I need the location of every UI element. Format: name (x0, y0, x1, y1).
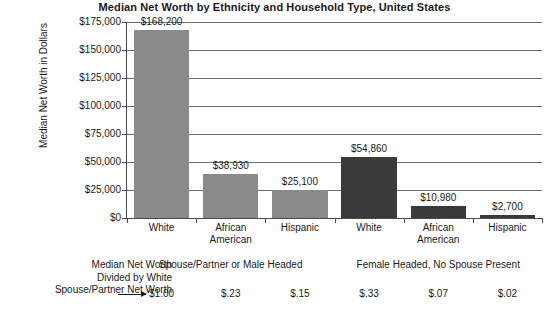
gridline (127, 162, 542, 163)
ratio-value: $.23 (196, 288, 265, 299)
x-category-label: White (127, 222, 196, 234)
ratio-value: $.33 (335, 288, 404, 299)
bar-value-label: $168,200 (122, 16, 202, 27)
bar (411, 206, 466, 218)
y-tick-mark (122, 190, 127, 191)
ratio-caption-line: Divided by White (6, 272, 172, 285)
x-category-label: Hispanic (265, 222, 334, 234)
y-tick-mark (122, 106, 127, 107)
ratio-value: $.07 (404, 288, 473, 299)
x-category-label: White (335, 222, 404, 234)
x-tick-mark (542, 218, 543, 223)
chart-figure: Median Net Worth by Ethnicity and Househ… (0, 0, 549, 310)
plot-area (127, 22, 542, 218)
ratio-value: $.02 (473, 288, 542, 299)
bar (480, 215, 535, 218)
bar-value-label: $25,100 (260, 176, 340, 187)
bar-value-label: $54,860 (329, 143, 409, 154)
gridline (127, 190, 542, 191)
bar (272, 190, 327, 218)
x-category-label: AfricanAmerican (404, 222, 473, 245)
bar-value-label: $38,930 (191, 160, 271, 171)
y-tick-label: $150,000 (43, 44, 121, 55)
y-tick-mark (122, 78, 127, 79)
y-tick-label: $175,000 (43, 16, 121, 27)
y-tick-label: $25,000 (43, 184, 121, 195)
ratio-value: $1.00 (127, 288, 196, 299)
gridline (127, 106, 542, 107)
bar-value-label: $2,700 (467, 201, 547, 212)
group-label: Female Headed, No Spouse Present (335, 259, 543, 270)
chart-title: Median Net Worth by Ethnicity and Househ… (0, 1, 549, 13)
y-tick-label: $75,000 (43, 128, 121, 139)
bar (134, 30, 189, 218)
y-tick-mark (122, 162, 127, 163)
x-category-label: AfricanAmerican (196, 222, 265, 245)
y-tick-label: $0 (43, 212, 121, 223)
ratio-value: $.15 (265, 288, 334, 299)
y-tick-mark (122, 134, 127, 135)
bar (341, 157, 396, 218)
gridline (127, 50, 542, 51)
y-tick-mark (122, 50, 127, 51)
y-tick-label: $50,000 (43, 156, 121, 167)
group-label: Spouse/Partner or Male Headed (127, 259, 335, 270)
y-tick-label: $100,000 (43, 100, 121, 111)
gridline (127, 134, 542, 135)
x-category-label: Hispanic (473, 222, 542, 234)
bar-value-label: $10,980 (398, 192, 478, 203)
gridline (127, 78, 542, 79)
y-tick-label: $125,000 (43, 72, 121, 83)
bar (203, 174, 258, 218)
